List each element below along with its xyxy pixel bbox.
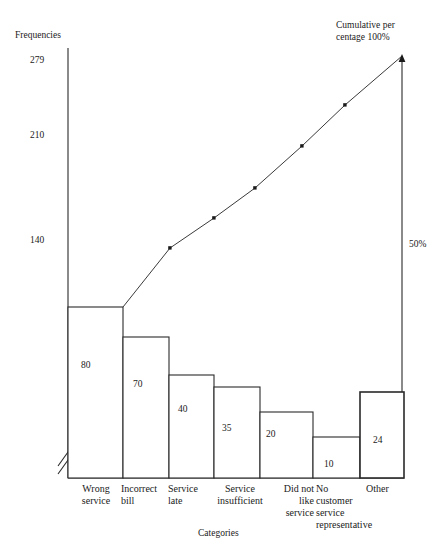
bar-value-label-24: 24 [373,435,383,446]
y-axis-title: Frequencies [15,30,61,41]
cumulative-percentage-line [123,56,402,307]
category-label-line: customer [316,495,392,507]
category-label-line: service [316,507,392,519]
category-label-line: service [66,495,126,507]
category-label-line: like [266,495,314,507]
secondary-y-axis-title-line2: centage 100% [336,32,390,43]
y-tick-label-210: 210 [30,130,44,141]
bar-service-late [169,375,214,478]
category-label-line: Incorrect [121,483,173,495]
bar-value-label-40: 40 [178,404,188,415]
category-label-line: service [266,507,314,519]
bar-service-insufficient [214,387,260,478]
bar-value-label-20: 20 [266,429,276,440]
category-label-line: Service [211,483,269,495]
category-label-line: representative [316,519,392,531]
x-axis-title: Categories [198,528,239,539]
category-label-line: insufficient [211,495,269,507]
y-tick-label-279: 279 [30,55,44,66]
bar-no-customer-service-representative [313,437,360,478]
category-label-incorrect-bill: Incorrect bill [121,483,173,507]
category-label-line: Other [366,483,408,495]
category-label-line: Did not [266,483,314,495]
category-label-line: Service [168,483,214,495]
category-label-line: bill [121,495,173,507]
bar-did-not-like-service [260,412,313,478]
chart-canvas [0,0,443,553]
bar-value-label-10: 10 [324,459,334,470]
secondary-y-tick-label-50: 50% [409,239,426,250]
bar-wrong-service [68,307,123,478]
bar-value-label-35: 35 [222,423,232,434]
bar-value-label-80: 80 [81,360,91,371]
category-label-did-not-like-service: Did not like service [266,483,314,519]
category-label-wrong-service: Wrong service [66,483,126,507]
category-label-line: late [168,495,214,507]
y-tick-label-140: 140 [30,235,44,246]
category-label-line: Wrong [66,483,126,495]
secondary-y-axis-title-line1: Cumulative per [336,20,395,31]
category-label-other: Other [366,483,408,495]
category-label-service-late: Service late [168,483,214,507]
bar-series [68,307,404,478]
bar-incorrect-bill [123,337,169,478]
bar-value-label-70: 70 [133,379,143,390]
pareto-chart: Frequencies 279 210 140 Cumulative per c… [0,0,443,553]
category-label-service-insufficient: Service insufficient [211,483,269,507]
